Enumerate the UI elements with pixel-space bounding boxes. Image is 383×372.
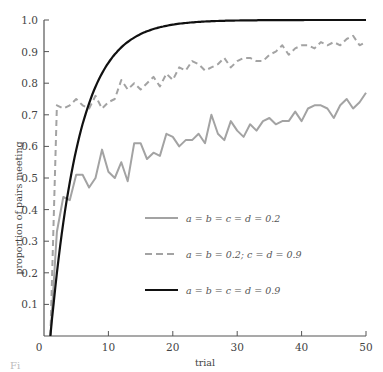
legend-label-1: a = b = c = d = 0.2 (186, 213, 280, 224)
figure-caption: Fi (10, 360, 20, 371)
y-tick-label: 0.9 (21, 46, 38, 58)
line-chart: 0.10.20.30.40.50.60.70.80.91.00102030405… (0, 0, 383, 372)
y-tick-label: 0.8 (21, 77, 38, 89)
y-tick-label: 0.1 (21, 298, 38, 310)
x-axis-label: trial (195, 357, 215, 368)
x-tick-label: 20 (166, 341, 179, 353)
legend-label-2: a = b = 0.2; c = d = 0.9 (186, 249, 302, 260)
y-axis-label: proportion of pairs meeting (13, 141, 24, 274)
y-tick-label: 0.7 (21, 109, 38, 121)
x-tick-label: 40 (295, 341, 308, 353)
y-tick-label: 1.0 (21, 14, 38, 26)
legend-label-3: a = b = c = d = 0.9 (186, 285, 280, 296)
x-tick-label: 10 (102, 341, 115, 353)
x-tick-label: 50 (359, 341, 372, 353)
x-tick-label: 30 (231, 341, 244, 353)
x-tick-label: 0 (36, 341, 43, 353)
